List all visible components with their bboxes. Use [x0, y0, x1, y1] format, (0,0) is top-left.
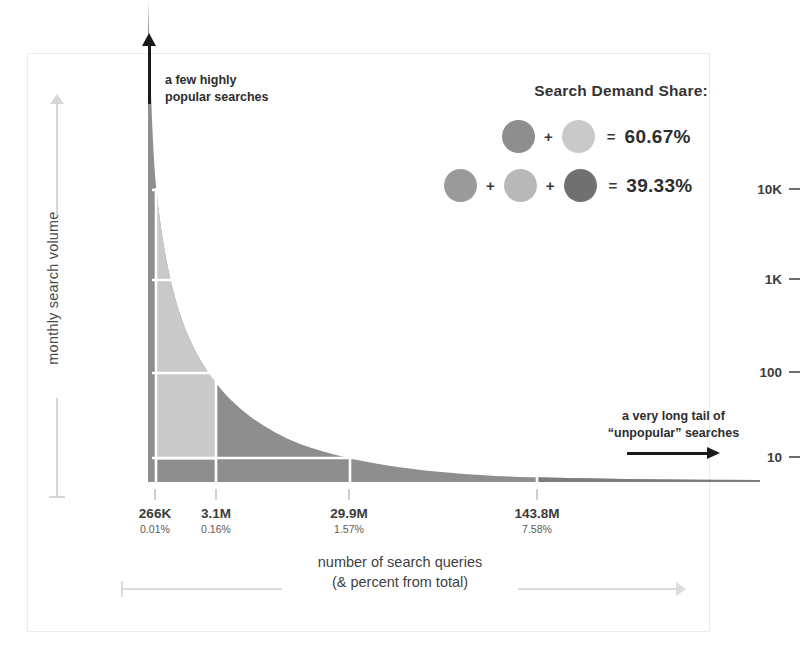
- legend-plus-icon-2: +: [546, 177, 555, 194]
- tail-annotation-arrow-head-icon: [707, 447, 720, 459]
- y-axis-arrow-shaft-top: [56, 100, 58, 215]
- y-axis-label: monthly search volume: [45, 173, 61, 403]
- legend-dot-light-medium: [504, 169, 537, 202]
- x-tick-143-8M-percent: 7.58%: [493, 523, 581, 537]
- legend-title: Search Demand Share:: [502, 82, 740, 100]
- x-tick-143-8M-value: 143.8M: [493, 506, 581, 523]
- legend-dot-dark: [502, 120, 535, 153]
- y-axis-arrow-cap: [49, 496, 65, 498]
- legend-plus-icon: +: [486, 177, 495, 194]
- legend-dot-medium: [444, 169, 477, 202]
- x-tick-3-1M-value: 3.1M: [172, 506, 260, 523]
- legend: Search Demand Share: + = 60.67% + + = 39…: [440, 82, 740, 218]
- y-tick-dash-icon: [789, 456, 800, 458]
- head-annotation-line2: popular searches: [165, 89, 269, 106]
- y-tick-100-label: 100: [759, 365, 782, 380]
- x-tick-29-9M-value: 29.9M: [305, 506, 393, 523]
- y-tick-dash-icon: [789, 278, 800, 280]
- x-axis-label: number of search queries (& percent from…: [250, 552, 550, 593]
- y-tick-1K: 1K: [660, 272, 800, 287]
- x-axis-range-bar-right: [518, 588, 678, 590]
- x-tick-29-9M-percent: 1.57%: [305, 523, 393, 537]
- legend-plus-icon: +: [544, 128, 553, 145]
- y-axis-arrow-shaft-bottom: [56, 398, 58, 498]
- x-tick-mark-icon: [215, 489, 217, 500]
- x-tick-mark-icon: [536, 489, 538, 500]
- y-tick-10K-label: 10K: [757, 182, 782, 197]
- legend-equals-icon: =: [607, 128, 616, 145]
- y-tick-dash-icon: [789, 371, 800, 373]
- legend-dot-light: [562, 120, 595, 153]
- x-axis-label-line2: (& percent from total): [250, 572, 550, 592]
- tail-annotation-arrow-shaft: [627, 452, 709, 455]
- x-tick-3-1M-percent: 0.16%: [172, 523, 260, 537]
- legend-row-tail-share: + + = 39.33%: [444, 169, 740, 202]
- x-axis-arrow-head-icon: [676, 582, 686, 596]
- tail-annotation: a very long tail of “unpopular” searches: [606, 408, 741, 442]
- y-tick-dash-icon: [789, 188, 800, 190]
- y-tick-100: 100: [660, 365, 800, 380]
- segment-upper-torso: [156, 190, 216, 460]
- y-tick-1K-label: 1K: [765, 272, 782, 287]
- x-axis-range-bar-left: [122, 588, 282, 590]
- head-annotation-arrow-shaft: [148, 44, 151, 104]
- head-annotation-line1: a few highly: [165, 72, 269, 89]
- tail-annotation-line2: “unpopular” searches: [606, 425, 741, 442]
- x-axis-range-cap-left: [121, 581, 123, 597]
- y-tick-10-label: 10: [767, 450, 782, 465]
- x-tick-mark-icon: [154, 489, 156, 500]
- legend-row-head-share: + = 60.67%: [502, 120, 740, 153]
- x-axis-label-line1: number of search queries: [250, 552, 550, 572]
- head-annotation-arrow-head-icon: [142, 33, 156, 46]
- legend-tail-share-value: 39.33%: [626, 175, 692, 197]
- x-tick-mark-icon: [348, 489, 350, 500]
- x-tick-143-8M: 143.8M 7.58%: [493, 489, 581, 537]
- head-annotation: a few highly popular searches: [165, 72, 269, 106]
- legend-dot-darker: [564, 169, 597, 202]
- legend-equals-icon: =: [609, 177, 618, 194]
- x-tick-3-1M: 3.1M 0.16%: [172, 489, 260, 537]
- legend-head-share-value: 60.67%: [625, 126, 691, 148]
- y-axis-arrow-head-icon: [50, 94, 64, 104]
- tail-annotation-line1: a very long tail of: [606, 408, 741, 425]
- x-tick-29-9M: 29.9M 1.57%: [305, 489, 393, 537]
